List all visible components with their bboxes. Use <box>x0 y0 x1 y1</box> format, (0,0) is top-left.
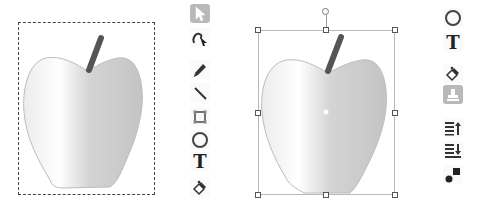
resize-handle-left[interactable] <box>255 110 261 116</box>
resize-handle-top-left[interactable] <box>255 27 261 33</box>
rotation-handle[interactable] <box>322 8 329 15</box>
ellipse-tool-button[interactable] <box>190 130 210 149</box>
fill-tool-button[interactable] <box>443 64 463 83</box>
resize-handle-bottom-left[interactable] <box>255 192 261 198</box>
ellipse-icon <box>444 9 462 27</box>
pencil-icon <box>192 62 208 78</box>
reshape-tool-button[interactable] <box>190 28 210 47</box>
resize-handle-bottom[interactable] <box>323 192 329 198</box>
line-tool-button[interactable] <box>190 83 210 102</box>
send-backward-button[interactable] <box>443 141 463 160</box>
resize-handle-right[interactable] <box>392 110 398 116</box>
resize-handle-top[interactable] <box>323 27 329 33</box>
left-editor: T <box>0 0 240 219</box>
line-icon <box>192 85 208 101</box>
apple-image[interactable] <box>18 30 158 200</box>
paint-bucket-icon <box>445 66 461 82</box>
text-tool-button[interactable]: T <box>443 33 463 52</box>
resize-handle-top-right[interactable] <box>392 27 398 33</box>
group-shapes-icon <box>444 166 462 184</box>
pencil-tool-button[interactable] <box>190 60 210 79</box>
reshape-icon <box>191 29 209 47</box>
bring-forward-button[interactable] <box>443 118 463 137</box>
rectangle-icon <box>192 109 208 125</box>
transform-selection-box <box>258 30 395 195</box>
stamp-tool-button[interactable] <box>443 85 463 104</box>
arrow-cursor-icon <box>193 6 207 22</box>
select-tool-button[interactable] <box>190 4 210 23</box>
text-icon: T <box>193 152 206 171</box>
resize-handle-bottom-right[interactable] <box>392 192 398 198</box>
send-backward-icon <box>444 143 462 159</box>
ellipse-icon <box>191 131 209 149</box>
text-icon: T <box>446 33 459 52</box>
paint-bucket-icon <box>192 180 208 196</box>
bring-forward-icon <box>444 120 462 136</box>
text-tool-button[interactable]: T <box>190 152 210 171</box>
group-shapes-button[interactable] <box>443 165 463 184</box>
rectangle-tool-button[interactable] <box>190 107 210 126</box>
fill-tool-button[interactable] <box>190 178 210 197</box>
stamp-icon <box>445 87 461 103</box>
ellipse-tool-button[interactable] <box>443 8 463 27</box>
